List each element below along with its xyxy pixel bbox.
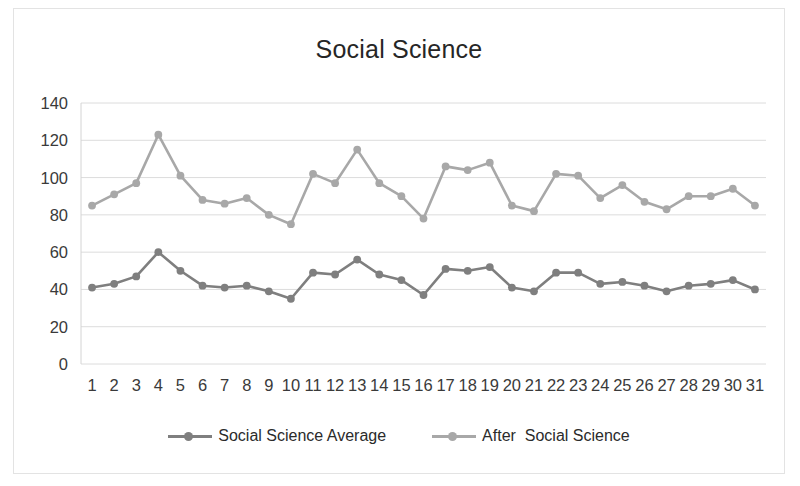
data-point [331, 179, 339, 187]
x-axis-tick-label: 26 [635, 376, 653, 395]
data-point [287, 220, 295, 228]
x-axis-tick-label: 15 [392, 376, 410, 395]
data-point [685, 282, 693, 290]
x-axis-tick-label: 29 [702, 376, 720, 395]
data-point [398, 192, 406, 200]
data-point [574, 269, 582, 277]
x-axis-tick-label: 30 [724, 376, 742, 395]
series-social-science-average [88, 248, 759, 302]
data-point [442, 265, 450, 273]
data-point [618, 278, 626, 286]
legend-dot [184, 432, 193, 441]
data-point [552, 269, 560, 277]
x-axis-tick-label: 27 [657, 376, 675, 395]
data-point [618, 181, 626, 189]
y-axis-tick-label: 0 [14, 355, 68, 374]
data-point [707, 280, 715, 288]
series-after-social-science [88, 131, 759, 228]
data-point [663, 205, 671, 213]
data-point [530, 287, 538, 295]
y-axis-tick-label: 60 [14, 243, 68, 262]
data-point [641, 282, 649, 290]
legend-label: After Social Science [482, 427, 630, 445]
x-axis-tick-label: 11 [304, 376, 321, 395]
data-point [331, 271, 339, 279]
x-axis-tick-label: 3 [132, 376, 141, 395]
data-point [641, 198, 649, 206]
data-point [177, 267, 185, 275]
x-axis-tick-label: 5 [176, 376, 185, 395]
data-point [353, 146, 361, 154]
data-point [707, 192, 715, 200]
data-point [663, 287, 671, 295]
x-axis-tick-label: 4 [154, 376, 163, 395]
data-point [177, 172, 185, 180]
data-point [729, 185, 737, 193]
x-axis-tick-label: 31 [746, 376, 764, 395]
y-axis-tick-label: 100 [14, 168, 68, 187]
data-point [309, 269, 317, 277]
x-axis-tick-label: 6 [198, 376, 207, 395]
x-axis-tick-label: 10 [282, 376, 300, 395]
data-point [464, 267, 472, 275]
x-axis-tick-label: 23 [569, 376, 587, 395]
data-point [243, 282, 251, 290]
x-axis-tick-label: 7 [220, 376, 229, 395]
data-point [287, 295, 295, 303]
data-point [530, 207, 538, 215]
data-point [243, 194, 251, 202]
data-point [420, 291, 428, 299]
y-axis-tick-label: 80 [14, 205, 68, 224]
x-axis-tick-label: 1 [87, 376, 96, 395]
data-point [442, 162, 450, 170]
data-point [420, 215, 428, 223]
data-point [596, 194, 604, 202]
data-point [375, 179, 383, 187]
data-point [751, 286, 759, 294]
y-axis-tick-label: 20 [14, 317, 68, 336]
x-axis-tick-label: 18 [459, 376, 477, 395]
series-line [92, 135, 755, 224]
chart-frame: Social Science 020406080100120140 123456… [13, 8, 785, 474]
legend-item[interactable]: After Social Science [432, 427, 630, 445]
data-point [154, 248, 162, 256]
gridlines [81, 103, 766, 364]
y-axis-tick-label: 140 [14, 94, 68, 113]
legend-marker-icon [432, 429, 476, 443]
data-point [132, 272, 140, 280]
data-point [486, 263, 494, 271]
data-point [729, 276, 737, 284]
legend-item[interactable]: Social Science Average [168, 427, 386, 445]
x-axis-tick-label: 8 [242, 376, 251, 395]
data-point [508, 202, 516, 210]
x-axis-tick-label: 14 [370, 376, 388, 395]
x-axis-tick-label: 12 [326, 376, 344, 395]
data-point [552, 170, 560, 178]
x-axis-tick-label: 9 [264, 376, 273, 395]
data-point [88, 284, 96, 292]
data-point [265, 211, 273, 219]
data-point [596, 280, 604, 288]
data-point [221, 200, 229, 208]
data-point [154, 131, 162, 139]
data-point [132, 179, 140, 187]
data-point [110, 190, 118, 198]
data-point [685, 192, 693, 200]
data-point [199, 196, 207, 204]
legend-dot [448, 432, 457, 441]
x-axis-tick-label: 20 [503, 376, 521, 395]
data-point [353, 256, 361, 264]
data-point [199, 282, 207, 290]
data-point [88, 202, 96, 210]
x-axis-tick-label: 25 [613, 376, 631, 395]
y-axis-tick-label: 40 [14, 280, 68, 299]
data-point [508, 284, 516, 292]
data-point [751, 202, 759, 210]
x-axis-tick-label: 22 [547, 376, 565, 395]
x-axis-tick-label: 2 [110, 376, 119, 395]
data-point [265, 287, 273, 295]
legend-marker-icon [168, 429, 212, 443]
x-axis-tick-label: 21 [525, 376, 543, 395]
x-axis-tick-label: 16 [414, 376, 432, 395]
legend-label: Social Science Average [218, 427, 386, 445]
